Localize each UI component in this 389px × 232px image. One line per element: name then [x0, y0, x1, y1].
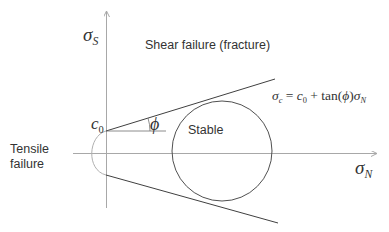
cohesion-intercept-label: c0 — [91, 114, 104, 135]
mohr-coulomb-diagram — [0, 0, 389, 232]
tensile-failure-region-label: Tensile failure — [10, 142, 49, 172]
failure-criterion-equation: σc = c0 + tan(ϕ)σN — [272, 88, 366, 105]
mohr-circle — [172, 101, 272, 201]
lower-failure-envelope — [106, 175, 278, 223]
stable-region-label: Stable — [188, 123, 223, 137]
shear-failure-region-label: Shear failure (fracture) — [145, 38, 270, 52]
shear-stress-axis-label: σS — [83, 24, 98, 49]
normal-stress-axis-label: σN — [355, 157, 372, 182]
friction-angle-label: ϕ — [150, 114, 159, 135]
